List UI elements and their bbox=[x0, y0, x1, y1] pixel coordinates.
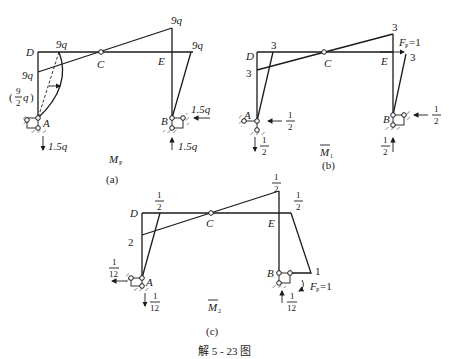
panel-label-b: (b) bbox=[322, 159, 335, 172]
value-E-right: 9q bbox=[192, 39, 204, 51]
hinge-C bbox=[99, 50, 104, 55]
diagram-title-b: M 1 bbox=[319, 145, 333, 159]
value-A-vertical: 1.5q bbox=[48, 140, 68, 152]
svg-text:1: 1 bbox=[112, 257, 117, 267]
panel-label-a: (a) bbox=[106, 173, 119, 186]
panel-label-c: (c) bbox=[206, 325, 219, 338]
svg-text:): ) bbox=[30, 91, 34, 104]
svg-text:(: ( bbox=[9, 91, 13, 104]
node-D-label: D bbox=[245, 50, 254, 62]
value-D-left: 9q bbox=[22, 69, 34, 81]
svg-text:12: 12 bbox=[150, 303, 159, 313]
svg-text:P: P bbox=[119, 160, 123, 166]
value-E-right: 1 2 bbox=[294, 190, 303, 212]
svg-text:2: 2 bbox=[16, 98, 21, 108]
value-B-vertical: 1.5q bbox=[178, 140, 198, 152]
value-D-left: 2 bbox=[128, 236, 134, 248]
svg-text:1: 1 bbox=[383, 135, 388, 145]
node-C-label: C bbox=[206, 217, 214, 229]
svg-text:2: 2 bbox=[296, 202, 301, 212]
value-A-vertical: 1 2 bbox=[260, 135, 269, 157]
value-B-horizontal: 1.5q bbox=[191, 103, 211, 115]
node-E-label: E bbox=[267, 217, 275, 229]
svg-text:M: M bbox=[319, 146, 330, 158]
value-B-horizontal: 1 2 bbox=[432, 104, 441, 126]
svg-text:2: 2 bbox=[274, 184, 279, 194]
node-B-label: B bbox=[267, 267, 274, 279]
panel-b: D C E A B 3 3 3 3 F P =1 1 2 1 2 1 2 1 bbox=[239, 21, 441, 172]
svg-text:=1: =1 bbox=[409, 36, 421, 48]
moment-line-left bbox=[142, 213, 160, 278]
value-A-horizontal: 1 12 bbox=[109, 257, 119, 279]
svg-text:1: 1 bbox=[288, 110, 293, 120]
diagram-title-c: M 2 bbox=[207, 300, 221, 314]
svg-text:1: 1 bbox=[434, 104, 439, 114]
node-E-label: E bbox=[157, 55, 165, 67]
svg-text:1: 1 bbox=[296, 190, 301, 200]
diagram-title-a: M P bbox=[108, 153, 123, 166]
value-D-left: 3 bbox=[246, 67, 252, 79]
svg-text:1: 1 bbox=[262, 135, 267, 145]
hinge-C bbox=[209, 211, 214, 216]
value-top-right: 3 bbox=[392, 21, 398, 33]
svg-text:M: M bbox=[108, 153, 119, 165]
value-A-horizontal: 1 2 bbox=[286, 110, 295, 132]
moment-line-right bbox=[172, 52, 191, 118]
svg-text:2: 2 bbox=[288, 122, 293, 132]
svg-text:M: M bbox=[207, 301, 218, 313]
load-moment-arrow bbox=[299, 280, 303, 291]
load-label: F P =1 bbox=[309, 280, 332, 293]
value-parabola-mid: ( 9 2 q ) bbox=[9, 86, 34, 108]
panel-c: D C E A B 1 2 1 2 2 1 2 1 F P =1 1 12 bbox=[109, 172, 332, 338]
value-B-vertical: 1 2 bbox=[381, 135, 390, 157]
node-B-label: B bbox=[383, 113, 390, 125]
node-A-label: A bbox=[145, 276, 153, 288]
moment-line-left bbox=[257, 52, 273, 121]
node-C-label: C bbox=[97, 58, 105, 70]
figure-caption: 解 5 - 23 图 bbox=[198, 344, 251, 357]
svg-text:2: 2 bbox=[434, 116, 439, 126]
svg-text:1: 1 bbox=[290, 291, 295, 301]
moment-parabola bbox=[38, 52, 63, 118]
moment-line-right bbox=[290, 213, 311, 273]
node-A-label: A bbox=[243, 109, 251, 121]
value-top-right: 1 2 bbox=[272, 172, 281, 194]
svg-text:9: 9 bbox=[16, 86, 21, 96]
node-A-label: A bbox=[42, 117, 50, 129]
value-B-right: 1 bbox=[315, 265, 321, 277]
moment-line-linear bbox=[38, 28, 172, 72]
moment-line-right bbox=[393, 54, 406, 115]
svg-text:12: 12 bbox=[287, 303, 296, 313]
svg-text:1: 1 bbox=[274, 172, 279, 182]
value-D-top: 9q bbox=[56, 38, 68, 50]
node-D-label: D bbox=[25, 46, 34, 58]
value-A-vertical: 1 12 bbox=[150, 291, 160, 313]
svg-text:2: 2 bbox=[157, 202, 162, 212]
svg-text:q: q bbox=[23, 91, 29, 103]
node-E-label: E bbox=[380, 55, 388, 67]
node-B-label: B bbox=[161, 115, 168, 127]
svg-text:1: 1 bbox=[157, 190, 162, 200]
value-top-right: 9q bbox=[171, 14, 183, 26]
svg-text:=1: =1 bbox=[320, 280, 332, 292]
value-D-top: 1 2 bbox=[155, 190, 164, 212]
svg-text:2: 2 bbox=[218, 308, 221, 314]
svg-text:1: 1 bbox=[153, 291, 158, 301]
hinge-C bbox=[322, 50, 327, 55]
support-A bbox=[239, 115, 265, 135]
value-D-top: 3 bbox=[271, 39, 277, 51]
parabola-chord bbox=[38, 52, 59, 118]
panel-a: D C E A B 9q 9q 9q 9q ( 9 2 q ) 1.5q 1.5… bbox=[9, 14, 211, 186]
load-label: F P =1 bbox=[398, 36, 421, 49]
svg-text:2: 2 bbox=[262, 147, 267, 157]
value-B-vertical: 1 12 bbox=[287, 291, 297, 313]
node-D-label: D bbox=[129, 207, 138, 219]
svg-text:2: 2 bbox=[383, 147, 388, 157]
node-C-label: C bbox=[324, 57, 332, 69]
figure-canvas: D C E A B 9q 9q 9q 9q ( 9 2 q ) 1.5q 1.5… bbox=[0, 0, 452, 359]
svg-text:12: 12 bbox=[109, 269, 118, 279]
value-E-right: 3 bbox=[410, 51, 416, 63]
